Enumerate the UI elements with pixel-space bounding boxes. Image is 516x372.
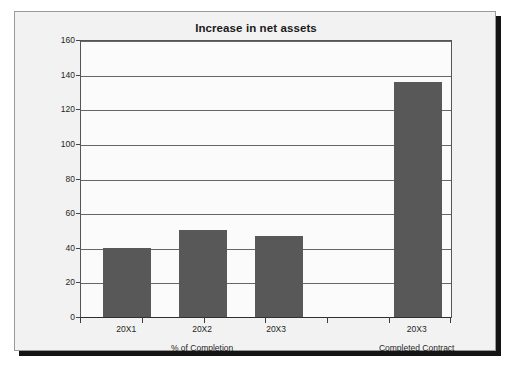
category-tick-mark (265, 317, 266, 323)
category-tick-mark (80, 317, 81, 323)
y-axis-tick-label: 100 (41, 139, 75, 149)
category-tick-mark (327, 317, 328, 323)
y-axis-tick-labels: 020406080100120140160 (35, 40, 75, 317)
y-axis-tick-label: 40 (41, 243, 75, 253)
chart-title: Increase in net assets (15, 22, 497, 34)
y-axis-tick-label: 160 (41, 35, 75, 45)
group-label: Completed Contract (379, 343, 455, 353)
category-label: 20X1 (116, 324, 136, 334)
category-tick-mark (450, 317, 451, 323)
y-axis-tick-mark (76, 213, 80, 214)
y-axis-tick-mark (76, 179, 80, 180)
y-axis-tick-mark (76, 248, 80, 249)
y-axis-tick-label: 120 (41, 104, 75, 114)
bar (179, 230, 227, 317)
y-axis-tick-label: 20 (41, 277, 75, 287)
chart-figure-frame: Increase in net assets 02040608010012014… (14, 11, 496, 351)
figure-drop-shadow-right (496, 16, 501, 356)
y-axis-tick-label: 0 (41, 312, 75, 322)
bar-series (81, 40, 450, 317)
bar (103, 248, 151, 317)
bar (255, 236, 303, 317)
y-axis-tick-mark (76, 109, 80, 110)
y-axis-tick-label: 140 (41, 70, 75, 80)
category-tick-mark (142, 317, 143, 323)
y-axis-tick-mark (76, 75, 80, 76)
category-tick-mark (204, 317, 205, 323)
y-axis-tick-label: 80 (41, 174, 75, 184)
category-tick-mark (389, 317, 390, 323)
y-axis-tick-mark (76, 40, 80, 41)
y-axis-tick-label: 60 (41, 208, 75, 218)
bar (394, 82, 442, 317)
category-label: 20X3 (407, 324, 427, 334)
y-axis-tick-mark (76, 317, 80, 318)
y-axis-tick-mark (76, 144, 80, 145)
category-label: 20X3 (266, 324, 286, 334)
category-label: 20X2 (192, 324, 212, 334)
y-axis-tick-mark (76, 282, 80, 283)
group-label: % of Completion (171, 343, 233, 353)
